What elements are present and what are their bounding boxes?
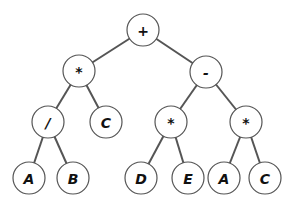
node-label: * [167,115,175,131]
tree-node: * [155,106,187,138]
tree-canvas: +*-/C**ABDEAC [0,0,291,206]
tree-node: C [249,162,281,194]
node-label: A [218,171,230,187]
node-label: * [242,115,250,131]
node-label: C [260,171,271,187]
tree-node: + [127,14,159,46]
edges-layer [29,30,265,178]
tree-node: A [13,162,45,194]
tree-node: A [208,162,240,194]
tree-node: * [230,106,262,138]
node-label: E [183,171,193,187]
tree-node: C [90,106,122,138]
tree-node: / [32,106,64,138]
node-label: B [68,171,79,187]
node-label: C [101,115,112,131]
tree-node: - [190,56,222,88]
tree-node: E [172,162,204,194]
tree-node: * [63,55,95,87]
node-label: D [135,171,147,187]
node-label: - [203,65,209,81]
node-label: * [75,64,83,80]
node-label: A [23,171,35,187]
tree-node: D [125,162,157,194]
nodes-layer: +*-/C**ABDEAC [13,14,281,194]
expression-tree-diagram: +*-/C**ABDEAC [0,0,291,206]
tree-node: B [57,162,89,194]
node-label: + [137,23,149,39]
